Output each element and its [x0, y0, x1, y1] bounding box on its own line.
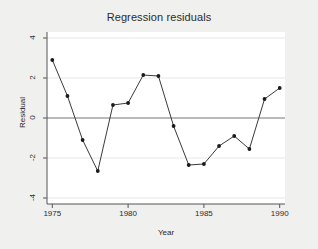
axis-ticks: [43, 38, 280, 208]
residual-series-line: [52, 60, 279, 171]
x-axis-label: Year: [47, 228, 285, 237]
y-tick-label: 2: [28, 67, 37, 89]
y-tick-label: -4: [28, 187, 37, 209]
y-tick-label: 4: [28, 27, 37, 49]
residual-series-markers: [50, 58, 281, 173]
y-tick-label: 0: [28, 107, 37, 129]
x-tick-label: 1980: [111, 209, 145, 218]
y-tick-label: -2: [28, 147, 37, 169]
chart-figure: Regression residuals Residual Year 420-2…: [0, 0, 318, 249]
x-tick-label: 1975: [35, 209, 69, 218]
y-axis-label: Residual: [18, 83, 27, 143]
x-tick-label: 1990: [263, 209, 297, 218]
x-tick-label: 1985: [187, 209, 221, 218]
